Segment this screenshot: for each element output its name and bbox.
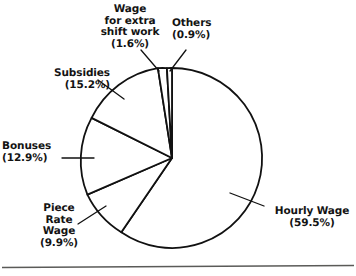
pie-slices [81,68,262,248]
pie-label-wage-extra-shift: Wage for extra shift work (1.6%) [78,4,182,50]
leader-line-wage-extra-shift [141,50,159,71]
pie-label-subsidies: Subsidies (15.2%) [14,68,110,91]
pie-label-others: Others (0.9%) [172,18,246,41]
pie-label-piece-rate-wage: Piece Rate Wage (9.9%) [26,203,92,249]
pie-label-hourly-wage: Hourly Wage (59.5%) [268,206,356,229]
bottom-rule [2,266,354,268]
pie-label-bonuses: Bonuses (12.9%) [2,141,94,164]
